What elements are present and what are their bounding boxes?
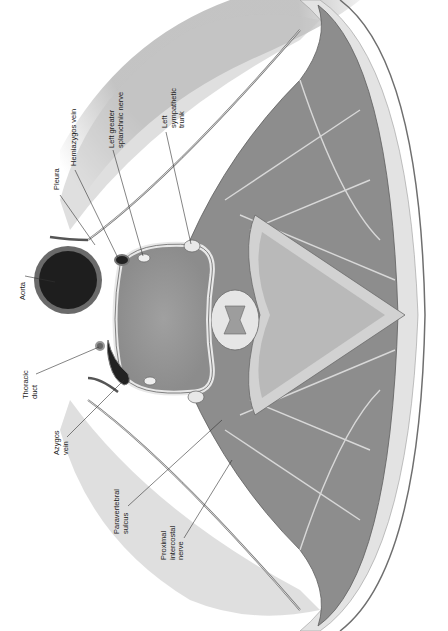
label-left-sympathetic-trunk: Left sympathetic trunk bbox=[161, 88, 187, 128]
anatomy-figure: Aorta Pleura Hemiazygos vein Left greate… bbox=[0, 0, 448, 631]
label-left-greater-splanchnic-nerve: Left greater splanchnic nerve bbox=[108, 92, 125, 148]
label-hemiazygos-vein: Hemiazygos vein bbox=[70, 109, 79, 166]
label-proximal-intercostal-nerve: Proximal intercostal nerve bbox=[160, 526, 186, 560]
thorax-cross-section-illustration bbox=[0, 0, 448, 631]
thoracic-duct bbox=[96, 342, 104, 350]
label-pleura: Pleura bbox=[53, 168, 62, 190]
left-greater-splanchnic-nerve bbox=[138, 254, 150, 262]
label-paravertebral-sulcus: Paravertebral sulcus bbox=[113, 489, 130, 534]
left-sympathetic-trunk bbox=[184, 240, 200, 252]
label-thoracic-duct: Thoracic duct bbox=[22, 370, 39, 399]
vertebral-body bbox=[115, 244, 212, 393]
label-azygos-vein: Azygos vein bbox=[53, 430, 70, 455]
label-aorta: Aorta bbox=[19, 282, 28, 300]
